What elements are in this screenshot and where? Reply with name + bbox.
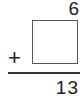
top-operand: 6 xyxy=(68,0,79,18)
missing-number-input-box[interactable] xyxy=(32,20,78,64)
sum-line-divider xyxy=(8,72,80,74)
sum-result: 13 xyxy=(56,78,79,97)
plus-sign: + xyxy=(8,49,21,67)
